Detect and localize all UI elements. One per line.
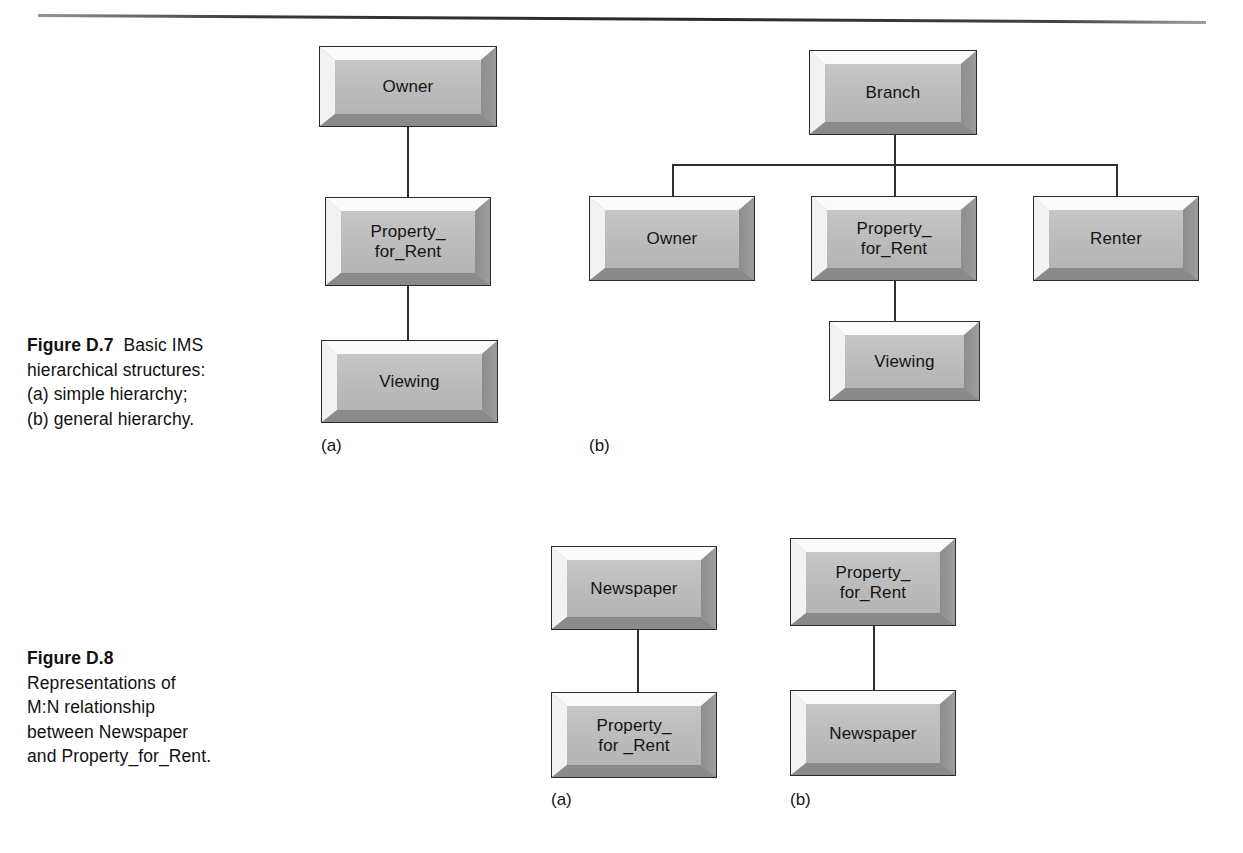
node-bevel-bottom [552, 765, 716, 777]
node-bevel-left [322, 341, 337, 422]
figure-d7-caption-text-1: Basic IMS [124, 335, 204, 355]
node-label: Newspaper [590, 579, 677, 599]
node-branch-d7b[interactable]: Branch [809, 50, 977, 135]
edge-property-to-viewing-d7b [894, 281, 896, 321]
node-label: Newspaper [829, 724, 916, 744]
node-bevel-left [791, 691, 806, 775]
node-bevel-bottom [320, 114, 496, 126]
node-property-for-rent-d8a[interactable]: Property_ for _Rent [551, 692, 717, 778]
node-bevel-right [961, 197, 976, 280]
figure-d7-caption-line-3: (a) simple hierarchy; [27, 382, 327, 407]
node-property-for-rent-d8b[interactable]: Property_ for_Rent [790, 538, 956, 626]
figure-d8-caption-line-3: between Newspaper [27, 720, 347, 745]
node-bevel-right [739, 197, 754, 280]
edge-branch-to-property-d7b [894, 164, 896, 196]
figure-d8-caption-line-2: M:N relationship [27, 695, 347, 720]
edge-property-to-viewing-d7a [407, 286, 409, 340]
node-bevel-top [810, 51, 976, 64]
node-bevel-right [940, 539, 955, 625]
node-bevel-top [326, 198, 490, 211]
figure-d7-caption: Figure D.7 Basic IMS hierarchical struct… [27, 333, 327, 431]
node-label: Owner [647, 229, 698, 249]
edge-branch-to-renter-d7b [1116, 164, 1118, 196]
node-bevel-right [701, 547, 716, 629]
node-face: Property_ for_Rent [806, 552, 940, 613]
node-bevel-right [475, 198, 490, 285]
node-viewing-d7a[interactable]: Viewing [321, 340, 498, 423]
node-bevel-left [810, 51, 825, 134]
node-label: Viewing [874, 352, 934, 372]
node-face: Newspaper [567, 560, 701, 617]
node-bevel-top [1034, 197, 1198, 210]
node-newspaper-d8a[interactable]: Newspaper [551, 546, 717, 630]
node-bevel-left [326, 198, 341, 285]
node-face: Viewing [845, 335, 964, 388]
node-bevel-bottom [322, 410, 497, 422]
node-bevel-bottom [1034, 268, 1198, 280]
node-bevel-top [791, 539, 955, 552]
node-bevel-right [961, 51, 976, 134]
figure-d8-caption: Figure D.8 Representations of M:N relati… [27, 646, 347, 769]
node-bevel-right [964, 322, 979, 400]
edge-branch-stem-d7b [894, 135, 896, 165]
node-bevel-right [481, 47, 496, 126]
node-bevel-left [830, 322, 845, 400]
node-bevel-bottom [552, 617, 716, 629]
node-bevel-left [1034, 197, 1049, 280]
node-bevel-bottom [791, 763, 955, 775]
edge-owner-to-property-d7a [407, 127, 409, 197]
node-face: Newspaper [806, 704, 940, 763]
node-face: Viewing [337, 354, 482, 410]
node-face: Property_ for _Rent [567, 706, 701, 765]
sublabel-d7-a: (a) [321, 436, 342, 456]
node-owner-d7a[interactable]: Owner [319, 46, 497, 127]
figure-d7-number: Figure D.7 [27, 335, 114, 355]
node-viewing-d7b[interactable]: Viewing [829, 321, 980, 401]
figure-d7-caption-line-4: (b) general hierarchy. [27, 407, 327, 432]
node-bevel-bottom [590, 268, 754, 280]
node-label: Property_ for_Rent [370, 222, 445, 262]
figure-d8-caption-line-4: and Property_for_Rent. [27, 744, 347, 769]
node-bevel-top [552, 693, 716, 706]
node-bevel-left [320, 47, 335, 126]
edge-property-to-newspaper-d8b [873, 626, 875, 690]
node-label: Property_ for_Rent [856, 219, 931, 259]
page-top-rule [38, 14, 1206, 24]
node-property-for-rent-d7b[interactable]: Property_ for_Rent [811, 196, 977, 281]
node-face: Property_ for_Rent [827, 210, 961, 268]
node-bevel-right [1183, 197, 1198, 280]
node-bevel-top [320, 47, 496, 60]
node-bevel-right [701, 693, 716, 777]
figure-d8-number-text: Figure D.8 [27, 648, 114, 668]
node-bevel-top [791, 691, 955, 704]
sublabel-d8-b: (b) [790, 790, 811, 810]
node-face: Owner [335, 60, 481, 114]
figure-d8-number: Figure D.8 [27, 646, 347, 671]
node-bevel-left [590, 197, 605, 280]
node-newspaper-d8b[interactable]: Newspaper [790, 690, 956, 776]
node-renter-d7b[interactable]: Renter [1033, 196, 1199, 281]
node-bevel-top [552, 547, 716, 560]
node-bevel-left [552, 547, 567, 629]
node-face: Renter [1049, 210, 1183, 268]
node-bevel-left [812, 197, 827, 280]
node-bevel-top [830, 322, 979, 335]
node-face: Owner [605, 210, 739, 268]
edge-branch-to-owner-d7b [672, 164, 674, 196]
node-label: Branch [866, 83, 921, 103]
figure-d7-caption-line-2: hierarchical structures: [27, 358, 327, 383]
node-label: Viewing [379, 372, 439, 392]
node-bevel-top [322, 341, 497, 354]
node-bevel-right [482, 341, 497, 422]
node-bevel-top [590, 197, 754, 210]
node-bevel-top [812, 197, 976, 210]
node-bevel-bottom [791, 613, 955, 625]
node-face: Property_ for_Rent [341, 211, 475, 273]
node-property-for-rent-d7a[interactable]: Property_ for_Rent [325, 197, 491, 286]
node-label: Property_ for_Rent [835, 563, 910, 603]
node-bevel-right [940, 691, 955, 775]
node-label: Renter [1090, 229, 1142, 249]
node-bevel-bottom [830, 388, 979, 400]
node-owner-d7b[interactable]: Owner [589, 196, 755, 281]
sublabel-d7-b: (b) [589, 436, 610, 456]
